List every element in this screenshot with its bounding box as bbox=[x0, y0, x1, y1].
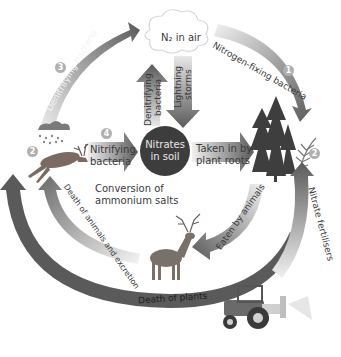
badge-2-right: 2 bbox=[309, 148, 320, 159]
nitrifying-label-2: bacteria bbox=[90, 156, 131, 167]
plant-roots-label-2: plant roots bbox=[196, 155, 250, 166]
rain-cloud-icon bbox=[38, 121, 70, 144]
air-label: N₂ in air bbox=[161, 32, 201, 43]
trees-icon bbox=[250, 96, 296, 182]
soil-label-2: in soil bbox=[140, 151, 190, 163]
plant-roots-label-1: Taken in by bbox=[196, 143, 252, 154]
badge-4: 4 bbox=[101, 128, 112, 139]
lightning-label-2: storms bbox=[183, 69, 194, 100]
soil-label-1: Nitrates bbox=[140, 139, 190, 151]
denitrifying-inner-label-2: bacteria bbox=[153, 79, 164, 116]
badge-2-left: 2 bbox=[27, 146, 38, 157]
badge-1: 1 bbox=[283, 65, 294, 76]
conversion-label-2: ammonium salts bbox=[95, 195, 178, 206]
conversion-label-1: Conversion of bbox=[95, 183, 164, 194]
badge-3: 3 bbox=[55, 62, 66, 73]
nitrifying-label-1: Nitrifying bbox=[90, 144, 136, 155]
